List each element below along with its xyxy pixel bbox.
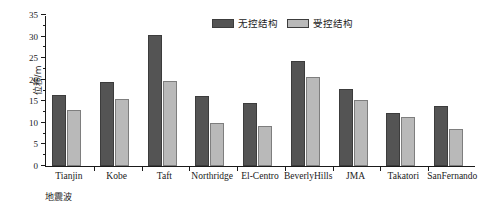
bar	[386, 113, 400, 166]
y-axis-tick-label: 20	[29, 75, 38, 84]
legend-label: 无控结构	[238, 19, 278, 29]
bar	[52, 95, 66, 166]
x-axis-tick	[333, 166, 334, 171]
bar-group	[380, 16, 428, 166]
y-axis-tick-label: 5	[34, 140, 39, 149]
bar	[306, 77, 320, 166]
bar	[210, 123, 224, 166]
x-axis-category-label: Kobe	[93, 172, 141, 182]
bar	[163, 81, 177, 166]
bar	[67, 110, 81, 166]
bar	[449, 129, 463, 166]
x-axis-tick	[380, 166, 381, 171]
bar	[100, 82, 114, 166]
x-axis-category-label: BeverlyHills	[284, 172, 332, 182]
bar	[434, 106, 448, 166]
bar-group	[189, 16, 237, 166]
plot-area: 05101520253035	[45, 16, 475, 167]
x-axis-category-label: Tianjin	[45, 172, 93, 182]
y-axis-tick-label: 30	[29, 32, 38, 41]
bar	[401, 117, 415, 166]
bar-group	[428, 16, 476, 166]
x-axis-category-label: El-Centro	[236, 172, 284, 182]
legend-swatch-icon	[212, 19, 234, 28]
bar	[291, 61, 305, 166]
x-axis-category-label: SanFernando	[427, 172, 475, 182]
x-axis-tick	[189, 166, 190, 171]
y-axis-tick-label: 15	[29, 97, 38, 106]
y-axis-tick-label: 10	[29, 118, 38, 127]
x-axis-tick	[94, 166, 95, 171]
legend-entry: 受控结构	[287, 19, 353, 29]
bar-group	[237, 16, 285, 166]
x-axis-tick	[142, 166, 143, 171]
bar-group	[285, 16, 333, 166]
bar	[195, 96, 209, 166]
y-axis-tick-label: 35	[29, 11, 38, 20]
bar-group	[94, 16, 142, 166]
bar	[339, 89, 353, 166]
x-axis-category-label: JMA	[332, 172, 380, 182]
x-axis-tick	[237, 166, 238, 171]
bar	[148, 35, 162, 166]
x-axis-label: 地震波	[45, 190, 72, 203]
bar-chart-figure: 位移/m 05101520253035 无控结构受控结构 地震波 Tianjin…	[0, 0, 489, 220]
chart-legend: 无控结构受控结构	[212, 19, 353, 29]
bar-group	[142, 16, 190, 166]
legend-swatch-icon	[287, 19, 309, 28]
legend-entry: 无控结构	[212, 19, 278, 29]
bar	[115, 99, 129, 166]
bar	[243, 103, 257, 166]
bar	[354, 100, 368, 166]
bar	[258, 126, 272, 166]
x-axis-category-label: Taft	[141, 172, 189, 182]
x-axis-category-label: Takatori	[379, 172, 427, 182]
y-axis-tick: 35	[41, 14, 46, 15]
legend-label: 受控结构	[313, 19, 353, 29]
bar-group	[333, 16, 381, 166]
x-axis-category-label: Northridge	[188, 172, 236, 182]
y-axis-tick-label: 25	[29, 54, 38, 63]
y-axis-tick-label: 0	[34, 162, 39, 171]
bar-group	[46, 16, 94, 166]
